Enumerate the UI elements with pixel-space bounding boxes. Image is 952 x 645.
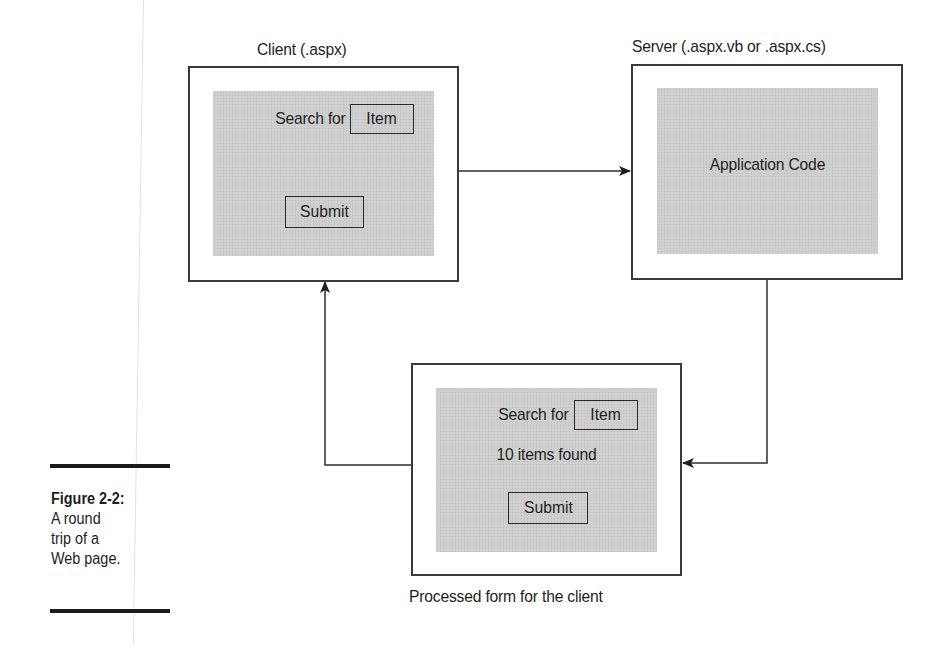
processed-search-field[interactable]: Item — [574, 400, 638, 430]
caption-line-3: Web page. — [51, 549, 125, 569]
client-search-field-value: Item — [367, 105, 397, 133]
client-submit-label: Submit — [300, 197, 349, 227]
caption-line-1: A round — [51, 509, 125, 529]
arrow-processed-to-client — [325, 282, 411, 465]
caption-line-2: trip of a — [51, 529, 125, 549]
client-title: Client (.aspx) — [257, 40, 347, 60]
client-search-field[interactable]: Item — [350, 104, 414, 134]
processed-result-text: 10 items found — [445, 445, 648, 465]
server-title: Server (.aspx.vb or .aspx.cs) — [632, 37, 826, 57]
processed-caption: Processed form for the client — [409, 587, 603, 607]
client-submit-button[interactable]: Submit — [285, 196, 364, 228]
caption-top-rule — [50, 464, 170, 468]
processed-search-label: Search for — [465, 405, 569, 425]
figure-caption: Figure 2-2: A round trip of a Web page. — [51, 489, 125, 569]
processed-submit-label: Submit — [524, 493, 573, 523]
caption-bottom-rule — [50, 609, 170, 613]
arrow-server-to-processed — [683, 280, 767, 463]
client-search-label: Search for — [244, 109, 345, 129]
processed-search-field-value: Item — [591, 401, 621, 429]
processed-submit-button[interactable]: Submit — [508, 492, 588, 524]
server-body-label: Application Code — [666, 155, 869, 175]
figure-number: Figure 2-2: — [51, 490, 125, 507]
